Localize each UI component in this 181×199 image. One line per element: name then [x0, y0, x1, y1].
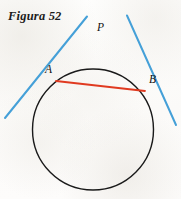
geometry-diagram	[0, 0, 181, 199]
tangent-line-right	[127, 16, 176, 126]
circle-shape	[33, 69, 154, 190]
figure-container: Figura 52 P A B	[0, 0, 181, 199]
point-label-b: B	[149, 74, 156, 86]
point-label-a: A	[45, 64, 52, 76]
figure-title: Figura 52	[8, 9, 62, 24]
point-label-p: P	[97, 22, 104, 34]
